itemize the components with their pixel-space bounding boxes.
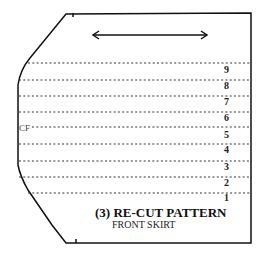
slash-lines (19, 63, 251, 193)
cf-label: CF (19, 123, 30, 133)
line-label-3: 3 (224, 161, 229, 172)
line-label-9: 9 (224, 64, 229, 75)
line-label-5: 5 (224, 129, 229, 140)
line-label-2: 2 (224, 177, 229, 188)
grainline-arrow-icon (93, 31, 207, 39)
line-label-7: 7 (224, 96, 229, 107)
pattern-diagram: CF 9 8 7 6 5 4 3 2 1 (3) RE-CUT PATTERN … (0, 0, 268, 260)
line-label-1: 1 (224, 192, 229, 203)
pattern-subtitle: FRONT SKIRT (112, 219, 175, 230)
pattern-title: (3) RE-CUT PATTERN (95, 205, 227, 220)
line-label-8: 8 (224, 80, 229, 91)
line-label-4: 4 (224, 144, 229, 155)
line-label-6: 6 (224, 112, 229, 123)
